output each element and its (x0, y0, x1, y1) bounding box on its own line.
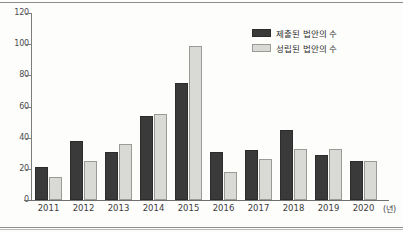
bar (189, 46, 202, 200)
legend-item: 성립된 법안의 수 (252, 42, 337, 54)
y-axis-labels: 020406080100120 (0, 0, 29, 210)
page-rule-top (0, 2, 403, 3)
x-tick-label: 2011 (29, 203, 69, 213)
bar (245, 150, 258, 200)
bar (70, 141, 83, 200)
bar-group (171, 13, 206, 200)
legend-swatch-icon (252, 29, 271, 37)
x-tick-label: 2012 (64, 203, 104, 213)
x-tick-label: 2016 (204, 203, 244, 213)
bar (259, 159, 272, 200)
page-rule-bottom-secondary (0, 229, 403, 230)
bar (350, 161, 363, 200)
x-tick-label: 2019 (309, 203, 349, 213)
x-axis-unit-label: (년) (383, 203, 396, 214)
bar (140, 116, 153, 200)
legend-swatch-icon (252, 44, 271, 52)
x-axis-line (24, 200, 389, 201)
bar (105, 152, 118, 200)
bar (35, 167, 48, 200)
bar-group (66, 13, 101, 200)
bar (175, 83, 188, 200)
x-axis-labels: 2011201220132014201520162017201820192020 (31, 203, 381, 221)
bar-group (136, 13, 171, 200)
legend-item: 제출된 법안의 수 (252, 27, 337, 39)
x-tick-label: 2017 (239, 203, 279, 213)
bar-group (31, 13, 66, 200)
bar (49, 177, 62, 200)
bar (294, 149, 307, 200)
bar (154, 114, 167, 200)
bar (119, 144, 132, 200)
bar (329, 149, 342, 200)
bar (280, 130, 293, 200)
bar (364, 161, 377, 200)
x-tick-label: 2013 (99, 203, 139, 213)
chart-figure: 020406080100120 201120122013201420152016… (0, 0, 403, 232)
bar-group (101, 13, 136, 200)
bar (315, 155, 328, 200)
x-tick-label: 2015 (169, 203, 209, 213)
x-tick-label: 2020 (344, 203, 384, 213)
bar-group (346, 13, 381, 200)
x-tick-label: 2018 (274, 203, 314, 213)
bar-group (206, 13, 241, 200)
bar (224, 172, 237, 200)
page-rule-bottom (0, 227, 403, 228)
bar (84, 161, 97, 200)
bar (210, 152, 223, 200)
legend-label: 제출된 법안의 수 (276, 27, 337, 39)
legend-label: 성립된 법안의 수 (276, 42, 337, 54)
chart-legend: 제출된 법안의 수성립된 법안의 수 (252, 27, 337, 54)
x-tick-label: 2014 (134, 203, 174, 213)
